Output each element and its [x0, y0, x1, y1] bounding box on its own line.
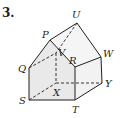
vertex-label-Q: Q [18, 63, 26, 74]
problem-number: 3. [2, 6, 15, 20]
vertex-label-S: S [19, 95, 26, 106]
vertex-label-R: R [68, 55, 77, 66]
vertex-label-T: T [72, 104, 80, 115]
vertex-label-P: P [41, 29, 49, 40]
vertex-label-U: U [72, 9, 81, 20]
prism-diagram: 3. U P V W R Q X Y S T [0, 0, 120, 118]
vertex-label-Y: Y [105, 78, 113, 89]
vertex-label-X: X [52, 87, 61, 98]
vertex-label-W: W [103, 48, 114, 59]
